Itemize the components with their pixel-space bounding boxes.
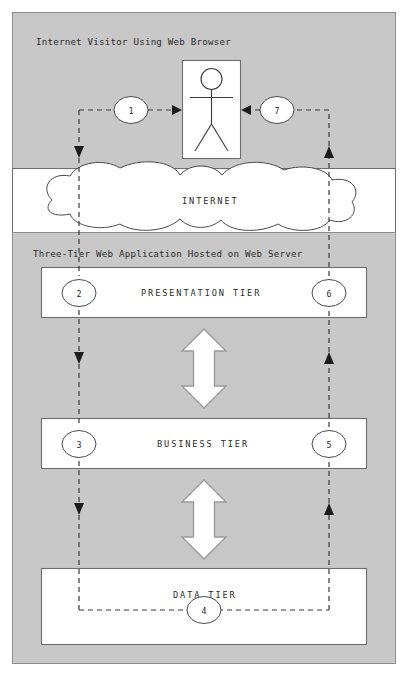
- business-tier-label: BUSINESS TIER: [157, 439, 249, 449]
- step-bubble-5-number: 5: [326, 440, 331, 450]
- step-bubble-4-number: 4: [201, 606, 206, 616]
- step-bubble-6-number: 6: [326, 289, 331, 299]
- three-tier-architecture-diagram: Internet Visitor Using Web Browser Three…: [0, 0, 408, 676]
- step-bubble-5[interactable]: 5: [312, 431, 346, 458]
- server-section-title: Three-Tier Web Application Hosted on Web…: [33, 248, 303, 259]
- step-bubble-4[interactable]: 4: [187, 597, 221, 624]
- step-bubble-3-number: 3: [76, 440, 81, 450]
- visitor-section-title: Internet Visitor Using Web Browser: [36, 36, 231, 47]
- step-bubble-6[interactable]: 6: [312, 280, 346, 307]
- diagram-canvas: Internet Visitor Using Web Browser Three…: [0, 0, 408, 676]
- presentation-tier-label: PRESENTATION TIER: [141, 288, 261, 298]
- step-bubble-2[interactable]: 2: [62, 280, 96, 307]
- internet-cloud-label: INTERNET: [182, 196, 239, 206]
- step-bubble-3[interactable]: 3: [62, 431, 96, 458]
- step-bubble-7[interactable]: 7: [260, 97, 294, 124]
- step-bubble-7-number: 7: [274, 106, 279, 116]
- step-bubble-2-number: 2: [76, 289, 81, 299]
- step-bubble-1-number: 1: [128, 106, 133, 116]
- step-bubble-1[interactable]: 1: [114, 97, 148, 124]
